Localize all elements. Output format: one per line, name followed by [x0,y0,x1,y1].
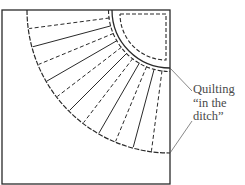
leader-line-bottom [170,121,192,153]
quilting-line [84,58,133,122]
quilting-line [57,47,121,96]
annotation-leader-lines [170,68,192,153]
block-frame [2,10,170,184]
annotation-line-3: ditch” [193,110,235,124]
quilting-line [29,18,109,29]
seam-line [33,26,111,47]
fan-blades [27,10,170,153]
annotation-line-1: Quilting [193,83,235,97]
annotation-line-2: “in the [193,97,235,111]
quilting-line [151,70,162,150]
seam-line [70,53,127,110]
seam-line [133,69,154,147]
leader-line-top [170,68,192,91]
frame-border [2,10,170,184]
annotation-label: Quilting “in the ditch” [193,83,235,124]
